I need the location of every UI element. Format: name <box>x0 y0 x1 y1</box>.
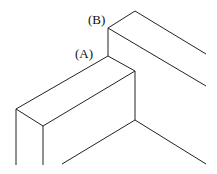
edge-line <box>16 109 43 126</box>
edge-line <box>135 120 206 164</box>
drawing-lines <box>16 11 206 165</box>
edge-line <box>16 56 108 109</box>
edge-line <box>108 56 135 71</box>
edge-line <box>43 71 135 126</box>
edge-line <box>108 28 206 86</box>
edge-line <box>62 120 135 164</box>
label-a: (A) <box>75 46 93 61</box>
label-b: (B) <box>88 12 105 27</box>
edge-line <box>108 11 135 28</box>
diagram-canvas: (B) (A) <box>0 0 217 174</box>
edge-line <box>135 11 206 54</box>
isometric-drawing: (B) (A) <box>0 0 217 174</box>
